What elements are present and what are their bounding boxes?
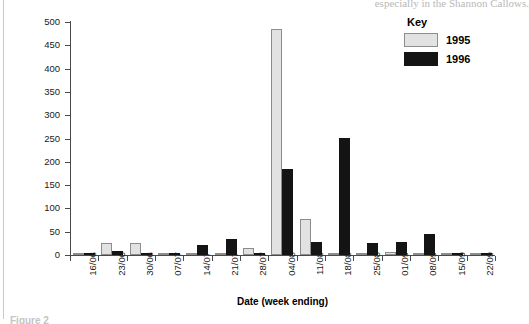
legend: Key 19951996 [404, 16, 514, 71]
bar-group [155, 22, 183, 255]
x-axis-tick-label: 04/08 [287, 252, 297, 292]
x-axis-tick-label: 08/09 [428, 252, 438, 292]
x-axis-tick-label: 28/07 [258, 252, 268, 292]
x-axis-tick [240, 256, 241, 261]
x-axis-tick [212, 256, 213, 261]
x-axis-tick-label: 16/06 [88, 252, 98, 292]
bar-group [268, 22, 296, 255]
bar-group [98, 22, 126, 255]
x-axis-tick [127, 256, 128, 261]
x-axis-tick-label: 21/07 [230, 252, 240, 292]
bar-1996-04-08 [282, 169, 293, 255]
bar-1995-07-07 [158, 253, 169, 255]
y-axis-tick-label: 50 [34, 227, 60, 236]
y-axis-tick-label: 350 [34, 87, 60, 96]
y-axis-tick-label: 250 [34, 134, 60, 143]
x-axis-title: Date (week ending) [70, 296, 495, 307]
bar-1995-25-08 [356, 253, 367, 255]
bar-1995-28-07 [243, 248, 254, 255]
y-axis-tick-label: 400 [34, 64, 60, 73]
x-axis-tick-label: 11/08 [315, 252, 325, 292]
y-axis-tick-label: 0 [34, 250, 60, 259]
x-axis-tick [382, 256, 383, 261]
x-axis-tick [268, 256, 269, 261]
bar-group [297, 22, 325, 255]
x-axis-tick-label: 01/09 [400, 252, 410, 292]
x-axis-tick-label: 23/06 [117, 252, 127, 292]
y-axis-tick-label: 500 [34, 17, 60, 26]
x-axis-tick-label: 14/07 [202, 252, 212, 292]
legend-title: Key [407, 16, 514, 28]
y-axis-tick-label: 150 [34, 180, 60, 189]
legend-label-1995: 1995 [446, 34, 470, 46]
bar-group [70, 22, 98, 255]
x-axis-tick-label: 18/08 [343, 252, 353, 292]
x-axis-tick [325, 256, 326, 261]
bar-1995-18-08 [328, 253, 339, 255]
bar-1995-04-08 [271, 29, 282, 255]
legend-label-1996: 1996 [446, 53, 470, 65]
x-axis-tick-end [495, 256, 496, 261]
x-axis-tick [297, 256, 298, 261]
y-axis-tick-label: 200 [34, 157, 60, 166]
bar-group [240, 22, 268, 255]
x-axis-tick [410, 256, 411, 261]
x-axis-tick [183, 256, 184, 261]
legend-swatch-1995 [404, 33, 438, 47]
bar-group [127, 22, 155, 255]
bar-1995-15-09 [441, 253, 452, 255]
bar-1995-22-09 [470, 253, 481, 255]
bar-group [212, 22, 240, 255]
y-axis-tick-label: 100 [34, 203, 60, 212]
x-axis-tick-label: 25/08 [372, 252, 382, 292]
x-axis-tick [70, 256, 71, 261]
bar-1995-30-06 [130, 243, 141, 255]
bar-1995-23-06 [101, 243, 112, 255]
y-axis-tick-label: 450 [34, 40, 60, 49]
bar-1995-21-07 [215, 253, 226, 255]
x-axis-tick-label: 15/09 [457, 252, 467, 292]
y-axis-tick-label: 300 [34, 110, 60, 119]
x-axis-tick [467, 256, 468, 261]
x-axis-tick-label: 22/09 [485, 252, 495, 292]
bar-1995-01-09 [385, 252, 396, 255]
legend-item-1996: 1996 [404, 52, 514, 66]
bar-1995-11-08 [300, 219, 311, 255]
legend-item-1995: 1995 [404, 33, 514, 47]
bar-group [325, 22, 353, 255]
bar-1995-14-07 [186, 253, 197, 255]
bar-1995-08-09 [413, 253, 424, 255]
bar-group [183, 22, 211, 255]
legend-swatch-1996 [404, 52, 438, 66]
bar-group [353, 22, 381, 255]
x-axis-tick [98, 256, 99, 261]
legend-rows: 19951996 [404, 33, 514, 66]
x-axis-tick [155, 256, 156, 261]
x-axis-tick-label: 30/06 [145, 252, 155, 292]
x-axis-tick [438, 256, 439, 261]
bar-1995-16-06 [73, 253, 84, 255]
x-axis-tick-label: 07/07 [173, 252, 183, 292]
x-axis-tick [353, 256, 354, 261]
bar-1996-18-08 [339, 138, 350, 255]
